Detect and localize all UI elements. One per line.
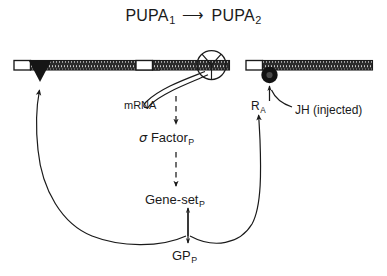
gene-set-word: Gene-set (145, 192, 198, 207)
chromosome-right-receptor-core (266, 72, 272, 78)
page-title: PUPA1⟶PUPA2 (0, 8, 387, 24)
sigma-factor-label: σ FactorP (139, 131, 194, 144)
arc-feedback-to-chromosome-left (36, 90, 186, 245)
gp-subscript: P (191, 255, 197, 265)
chromosome-right (246, 61, 373, 84)
arc-feedback-to-receptor (190, 115, 261, 243)
mrna-strand-lower (148, 75, 208, 108)
jh-connector-line (272, 90, 293, 107)
gp-label: GPP (172, 249, 197, 262)
receptor-word: R (251, 99, 260, 113)
sigma-factor-word: Factor (151, 130, 188, 145)
pupa1-label: PUPA1 (125, 7, 175, 24)
gene-set-label: Gene-setP (145, 193, 205, 206)
jh-injected-label: JH (injected) (295, 104, 362, 116)
chromosome-left-promoter-box (14, 61, 31, 71)
mrna-label: mRNA (124, 100, 156, 111)
receptor-label: RA (251, 100, 266, 112)
chromosome-middle-gene-bar (153, 61, 230, 71)
sigma-factor-subscript: P (188, 137, 194, 147)
chromosome-right-promoter-box (246, 61, 263, 71)
chromosome-left-triangle-marker (29, 60, 52, 82)
gp-word: GP (172, 248, 191, 263)
receptor-subscript: A (260, 106, 265, 115)
pupa2-label: PUPA2 (212, 7, 262, 24)
chromosome-middle-promoter-box (136, 61, 153, 71)
chromosome-right-gene-bar (263, 61, 373, 71)
gene-set-subscript: P (199, 199, 205, 209)
pupa-transition-arrow-icon: ⟶ (182, 7, 204, 22)
pupa-regulation-figure: PUPA1⟶PUPA2 mRNA σ FactorP Gene-setP GPP… (0, 0, 387, 276)
sigma-symbol: σ (139, 130, 147, 145)
